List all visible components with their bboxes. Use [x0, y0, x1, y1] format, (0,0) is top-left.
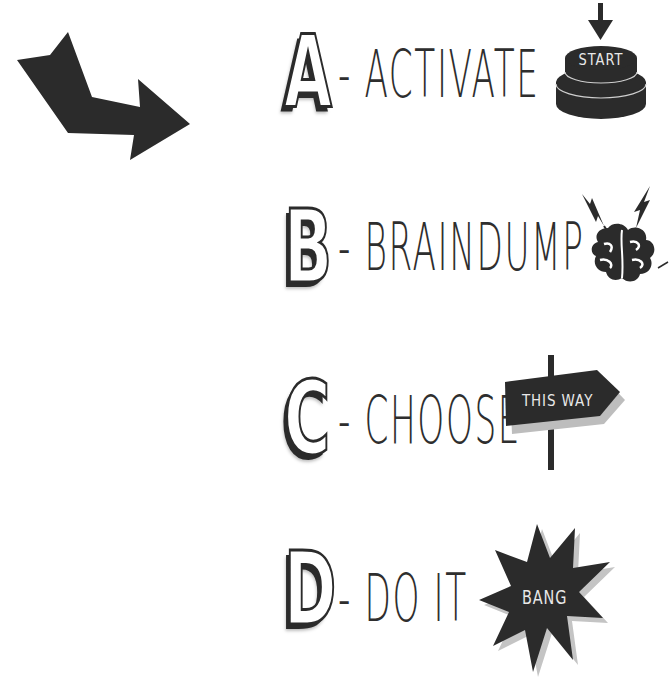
step-label-choose: - CHOOSE [338, 388, 521, 454]
bent-arrow-icon [0, 0, 200, 170]
step-letter-b: B [284, 196, 332, 298]
start-button-icon: START [548, 0, 658, 125]
starburst-label: BANG [522, 586, 567, 608]
step-letter-a: A [284, 22, 332, 122]
step-letter-d: D [284, 538, 336, 640]
step-label-activate: - ACTIVATE [338, 42, 540, 108]
starburst-icon: BANG [475, 520, 625, 682]
step-label-do-it: - DO IT [338, 566, 468, 632]
start-button-label: START [578, 51, 623, 68]
brain-lightning-icon [570, 180, 669, 300]
step-label-braindump: - BRAINDUMP [338, 215, 585, 281]
signpost-icon: THIS WAY [500, 350, 625, 475]
step-letter-c: C [284, 368, 330, 470]
signpost-label: THIS WAY [521, 392, 593, 409]
